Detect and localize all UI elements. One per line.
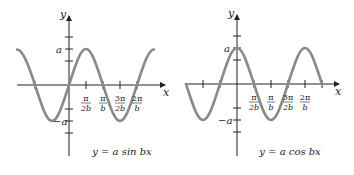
- svg-text:3π: 3π: [283, 93, 293, 102]
- cosine-graph: y x a −a π 2b π b 3π 2b 2π b y = a cos b…: [186, 7, 342, 157]
- x-axis-label: x: [335, 85, 342, 98]
- tick-label-pi-b: π b: [267, 93, 275, 112]
- svg-text:b: b: [268, 103, 273, 112]
- tick-label-2pi-b: 2π b: [132, 94, 142, 113]
- y-axis-label: y: [59, 8, 67, 21]
- svg-text:3π: 3π: [115, 94, 125, 103]
- svg-text:b: b: [302, 103, 307, 112]
- svg-text:2b: 2b: [80, 104, 91, 113]
- svg-text:π: π: [100, 94, 105, 103]
- tick-label-3pi-2b: 3π 2b: [114, 94, 125, 113]
- neg-amplitude-label: −a: [218, 115, 232, 126]
- tick-label-2pi-b: 2π b: [300, 93, 310, 112]
- tick-label-pi-2b: π 2b: [80, 94, 91, 113]
- amplitude-label: a: [224, 43, 230, 54]
- y-axis-label: y: [227, 7, 235, 20]
- svg-text:π: π: [251, 93, 256, 102]
- svg-text:2π: 2π: [300, 93, 310, 102]
- x-axis-label: x: [163, 86, 170, 99]
- svg-text:b: b: [100, 104, 105, 113]
- svg-text:2b: 2b: [282, 103, 293, 112]
- trig-graphs-figure: y x a −a π 2b π b 3π 2b 2π b y = a sin b…: [0, 0, 354, 175]
- svg-text:π: π: [268, 93, 273, 102]
- svg-text:π: π: [83, 94, 88, 103]
- cosine-caption: y = a cos bx: [258, 146, 321, 157]
- sine-graph: y x a −a π 2b π b 3π 2b 2π b y = a sin b…: [17, 8, 170, 157]
- amplitude-label: a: [56, 44, 62, 55]
- svg-text:2π: 2π: [132, 94, 142, 103]
- neg-amplitude-label: −a: [53, 116, 67, 127]
- svg-text:2b: 2b: [248, 103, 259, 112]
- svg-text:2b: 2b: [114, 104, 125, 113]
- svg-text:b: b: [134, 104, 139, 113]
- sine-caption: y = a sin bx: [91, 146, 152, 157]
- tick-label-3pi-2b: 3π 2b: [282, 93, 293, 112]
